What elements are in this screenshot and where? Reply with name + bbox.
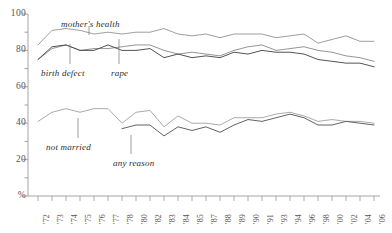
y-axis-tick-label: 60 — [0, 81, 26, 91]
x-axis-tick-label: '72 — [42, 214, 51, 224]
x-axis-tick-label: '87 — [210, 214, 219, 224]
abortion-attitudes-line-chart: 10080604020% '72'73'74'75'76'77'78'80'82… — [0, 0, 392, 233]
x-axis-tick-label: '82 — [154, 214, 163, 224]
series-line-rape — [38, 45, 374, 61]
x-axis-tick-label: '84 — [182, 214, 191, 224]
series-label-rape: rape — [111, 68, 128, 78]
x-axis-tick-label: '73 — [56, 214, 65, 224]
x-axis-tick-label: '76 — [98, 214, 107, 224]
x-axis-tick-label: '78 — [126, 214, 135, 224]
x-axis-tick-label: '98 — [322, 214, 331, 224]
series-label-any-reason: any reason — [113, 158, 154, 168]
y-axis-tick-label: 80 — [0, 44, 26, 54]
x-axis-tick-label: '90 — [252, 214, 261, 224]
series-line-not-married — [38, 109, 374, 127]
series-line-mother-s-health — [38, 29, 374, 45]
x-axis-tick-label: '06 — [378, 214, 387, 224]
y-axis-tick-label: 100 — [0, 8, 26, 18]
x-axis-tick-label: '02 — [350, 214, 359, 224]
x-axis-tick-label: '89 — [238, 214, 247, 224]
y-axis-tick-label: 20 — [0, 154, 26, 164]
x-axis-tick-label: '91 — [266, 214, 275, 224]
x-axis-tick-label: '04 — [364, 214, 373, 224]
y-axis-tick-label: 40 — [0, 117, 26, 127]
x-axis-tick-label: '85 — [196, 214, 205, 224]
x-axis-tick-label: '75 — [84, 214, 93, 224]
y-axis-tick-label: % — [0, 190, 26, 200]
x-axis-tick-label: '80 — [140, 214, 149, 224]
x-axis-tick-label: '83 — [168, 214, 177, 224]
series-line-birth-defect — [38, 45, 374, 67]
x-axis-tick-label: '77 — [112, 214, 121, 224]
series-label-birth-defect: birth defect — [41, 68, 85, 78]
x-axis-tick-label: '94 — [294, 214, 303, 224]
x-axis-tick-label: '00 — [336, 214, 345, 224]
x-axis-tick-label: '96 — [308, 214, 317, 224]
plot-area — [0, 0, 392, 233]
series-label-mother-s-health: mother's health — [61, 19, 120, 29]
series-label-not-married: not married — [46, 142, 91, 152]
x-axis-tick-label: '88 — [224, 214, 233, 224]
x-axis-tick-label: '93 — [280, 214, 289, 224]
x-axis-tick-label: '74 — [70, 214, 79, 224]
